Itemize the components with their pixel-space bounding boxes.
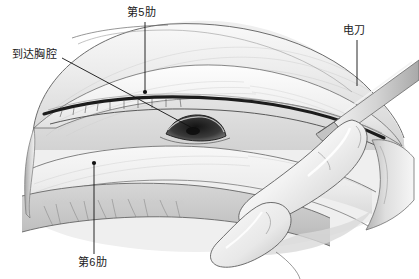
- thoracotomy-figure: 第5肋 到达胸腔 电刀 第6肋: [0, 0, 419, 279]
- annotation-label-rib5: 第5肋: [127, 6, 156, 19]
- annotation-label-rib6: 第6肋: [78, 256, 107, 269]
- leader-dot-rib6: [92, 161, 96, 165]
- hand-edge-line: [276, 252, 300, 279]
- illustration-canvas: [0, 0, 419, 279]
- annotation-label-pleura: 到达胸腔: [12, 48, 57, 61]
- annotation-label-cautery: 电刀: [343, 24, 365, 37]
- leader-dot-rib5: [143, 90, 147, 94]
